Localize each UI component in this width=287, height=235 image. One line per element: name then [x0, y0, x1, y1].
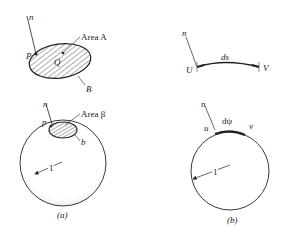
circle-normal-label: n — [201, 99, 206, 109]
figure-canvas: n P Q Area A B n p Area β b 1 (a) n U — [0, 0, 287, 235]
point-V-label: V — [263, 63, 270, 73]
normal-label: n — [29, 12, 34, 22]
arc-normal-line — [186, 37, 197, 67]
caption-b: (b) — [227, 215, 238, 225]
area-beta-label: Area β — [81, 109, 106, 119]
sphere-group: n p Area β b 1 (a) — [20, 99, 106, 220]
point-p-label: p — [41, 117, 47, 127]
circle-group: n u v dψ 1 (b) — [191, 99, 269, 225]
point-v-label: v — [249, 121, 253, 131]
point-P-dot — [35, 53, 38, 56]
boundary-B-label: B — [86, 84, 92, 94]
point-U-label: U — [186, 65, 193, 75]
circle-radius-label: 1 — [213, 167, 218, 177]
unit-circle — [191, 132, 269, 210]
ds-label: ds — [221, 52, 230, 62]
point-P-label: P — [25, 51, 32, 61]
sphere-radius-label: 1 — [49, 163, 54, 173]
area-beta-region — [49, 122, 77, 138]
flat-arc-group: n U V ds — [182, 28, 270, 75]
boundary-b-label: b — [81, 137, 86, 147]
arc-end-tick — [252, 65, 259, 67]
circle-radius-arrow — [193, 165, 230, 179]
arc-normal-label: n — [182, 28, 187, 38]
area-A-label: Area A — [81, 32, 107, 42]
sphere-normal-label: n — [43, 99, 48, 109]
flat-region-group: n P Q Area A B — [25, 12, 107, 94]
dpsi-label: dψ — [222, 116, 233, 126]
boundary-B-leader — [78, 76, 85, 85]
point-u-label: u — [204, 123, 209, 133]
point-Q-dot — [62, 52, 65, 55]
caption-a: (a) — [57, 210, 68, 220]
arc-start-tick — [197, 65, 204, 67]
point-Q-label: Q — [54, 57, 61, 67]
point-p-dot — [50, 125, 53, 128]
arc-ds — [197, 63, 259, 68]
arc-dpsi — [215, 131, 245, 135]
